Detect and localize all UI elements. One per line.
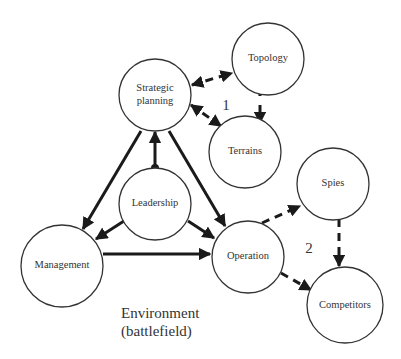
node-label: Strategic [136, 82, 174, 93]
node-competitors[interactable]: Competitors [307, 267, 383, 343]
edge-operation-spies [262, 206, 300, 223]
node-label: Leadership [132, 197, 179, 208]
node-strategic-planning[interactable]: Strategic planning [119, 59, 191, 131]
node-label: Operation [227, 250, 270, 261]
node-leadership[interactable]: Leadership [119, 168, 191, 240]
node-topology[interactable]: Topology [232, 23, 304, 95]
node-operation[interactable]: Operation [212, 221, 284, 293]
environment-label: Environment [121, 305, 200, 321]
edge-leadership-management [96, 221, 124, 239]
node-label: Topology [248, 52, 289, 63]
node-label: Management [35, 259, 90, 270]
edge-strategic-terrains [191, 105, 221, 126]
node-spies[interactable]: Spies [297, 148, 369, 220]
group-label-2: 2 [305, 240, 313, 256]
node-label: Spies [322, 177, 345, 188]
node-terrains[interactable]: Terrains [209, 116, 281, 188]
diagram-canvas: Strategic planning Topology Terrains Lea… [0, 0, 401, 359]
edge-strategic-topology [192, 73, 232, 85]
nodes: Strategic planning Topology Terrains Lea… [21, 23, 383, 343]
node-management[interactable]: Management [21, 225, 103, 307]
environment-sublabel: (battlefield) [121, 323, 192, 340]
diagram-svg: Strategic planning Topology Terrains Lea… [0, 0, 401, 359]
edge-operation-competitors [281, 273, 311, 290]
node-label: Terrains [228, 145, 262, 156]
group-label-1: 1 [222, 97, 230, 113]
node-label: planning [137, 95, 174, 106]
node-label: Competitors [319, 299, 371, 310]
edge-leadership-operation [188, 221, 214, 238]
